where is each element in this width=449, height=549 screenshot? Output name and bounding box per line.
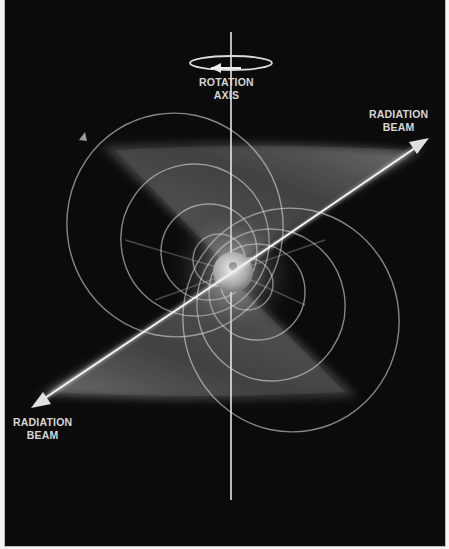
pulsar-diagram-frame: ROTATION AXIS RADIATION BEAM RADIATION B… [4, 0, 446, 547]
rotation-axis-label: ROTATION AXIS [199, 76, 254, 102]
label-line: RADIATION [13, 416, 72, 429]
radiation-beam-label-top: RADIATION BEAM [369, 108, 428, 134]
label-line: BEAM [13, 429, 72, 442]
label-line: AXIS [199, 89, 254, 102]
label-line: ROTATION [199, 76, 254, 89]
radiation-beam-label-bottom: RADIATION BEAM [13, 416, 72, 442]
label-line: RADIATION [369, 108, 428, 121]
label-line: BEAM [369, 121, 428, 134]
